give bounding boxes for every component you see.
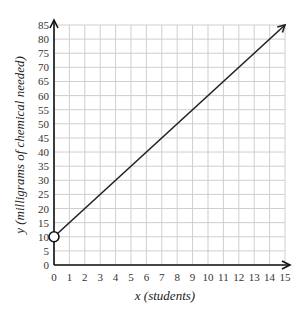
data-line bbox=[54, 25, 285, 237]
y-axis-label: y (milligrams of chemical needed) bbox=[12, 56, 27, 236]
x-tick: 6 bbox=[144, 271, 150, 283]
x-tick: 7 bbox=[159, 271, 165, 283]
y-tick: 40 bbox=[38, 146, 50, 158]
x-tick: 5 bbox=[128, 271, 134, 283]
y-tick: 45 bbox=[38, 132, 50, 144]
y-tick: 35 bbox=[38, 160, 50, 172]
y-tick: 0 bbox=[44, 259, 50, 271]
x-tick: 14 bbox=[264, 271, 276, 283]
x-tick: 9 bbox=[190, 271, 196, 283]
y-tick: 10 bbox=[38, 231, 50, 243]
y-tick: 60 bbox=[38, 90, 50, 102]
x-tick: 10 bbox=[203, 271, 215, 283]
y-tick: 5 bbox=[44, 245, 50, 257]
x-tick-labels: 0123456789101112131415 bbox=[51, 271, 291, 283]
x-tick: 11 bbox=[218, 271, 229, 283]
y-tick: 20 bbox=[38, 203, 50, 215]
y-tick: 30 bbox=[38, 174, 50, 186]
y-tick: 25 bbox=[38, 188, 50, 200]
grid bbox=[54, 25, 285, 265]
y-tick: 15 bbox=[38, 217, 50, 229]
y-tick-labels: 0510152025303540455055606570758085 bbox=[38, 19, 50, 271]
x-axis-label: x (students) bbox=[134, 288, 195, 303]
y-tick: 65 bbox=[38, 75, 50, 87]
y-tick: 70 bbox=[38, 61, 50, 73]
y-tick: 75 bbox=[38, 47, 50, 59]
line-chart: 0510152025303540455055606570758085 01234… bbox=[0, 0, 304, 314]
x-tick: 12 bbox=[233, 271, 244, 283]
x-tick: 13 bbox=[249, 271, 261, 283]
x-tick: 3 bbox=[97, 271, 103, 283]
open-circle-marker bbox=[49, 232, 59, 242]
y-tick: 85 bbox=[38, 19, 50, 31]
x-tick: 15 bbox=[280, 271, 292, 283]
x-tick: 8 bbox=[174, 271, 180, 283]
x-tick: 2 bbox=[82, 271, 88, 283]
y-tick: 80 bbox=[38, 33, 50, 45]
y-tick: 55 bbox=[38, 104, 50, 116]
y-tick: 50 bbox=[38, 118, 50, 130]
x-tick: 0 bbox=[51, 271, 57, 283]
x-tick: 1 bbox=[67, 271, 73, 283]
x-tick: 4 bbox=[113, 271, 119, 283]
